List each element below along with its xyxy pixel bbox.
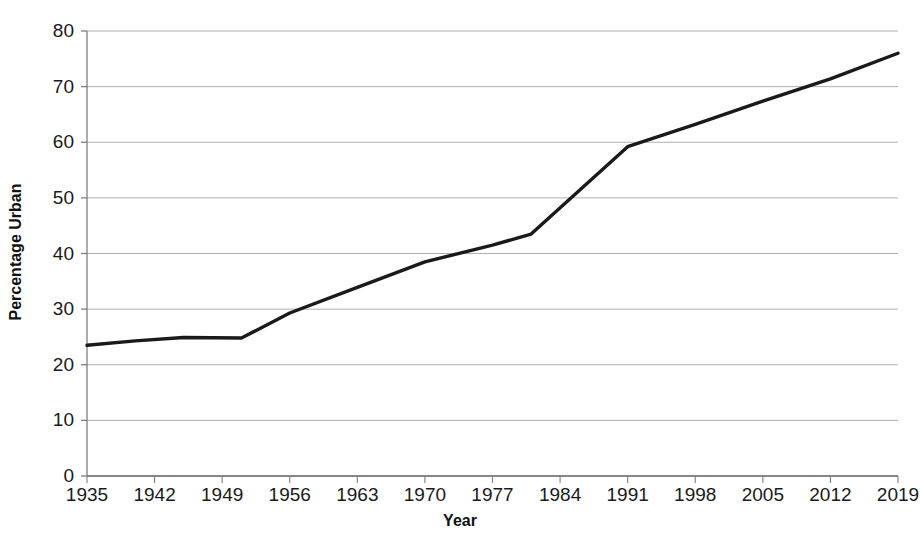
x-axis-tick-label: 2019 [858, 484, 920, 506]
chart-canvas [0, 0, 920, 559]
y-axis-title: Percentage Urban [7, 142, 25, 362]
x-axis-tick-labels: 1935194219491956196319701977198419911998… [0, 484, 920, 512]
y-axis-title-container: Percentage Urban [0, 0, 40, 559]
line-chart: 01020304050607080 1935194219491956196319… [0, 0, 920, 559]
x-axis-title: Year [0, 512, 920, 530]
x-axis-ticks [87, 476, 898, 483]
data-series-line [87, 53, 898, 345]
